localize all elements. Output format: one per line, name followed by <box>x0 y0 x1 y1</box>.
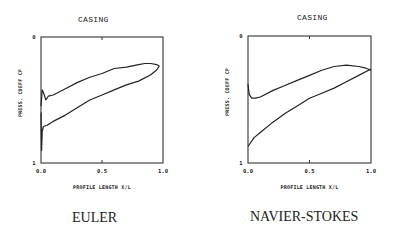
y-tick-label: 1 <box>239 160 243 166</box>
navier-stokes-panel: CASING 010.00.51.0PROFILE LENGTH X/LPRES… <box>200 0 395 239</box>
plot-frame <box>248 36 371 163</box>
y-tick-label: 1 <box>32 160 36 166</box>
x-axis-title: PROFILE LENGTH X/L <box>73 184 131 190</box>
x-tick-label: 0.0 <box>243 168 253 174</box>
y-tick-label: 0 <box>239 33 242 39</box>
euler-panel: CASING 010.00.51.0PROFILE LENGTH X/LPRES… <box>0 0 200 239</box>
x-tick-label: 1.0 <box>366 168 376 174</box>
cp-curve-upper <box>248 65 371 98</box>
cp-curve-lower <box>41 66 159 150</box>
plot-frame <box>41 37 163 163</box>
euler-plot: 010.00.51.0PROFILE LENGTH X/LPRESS. COEF… <box>0 0 200 200</box>
x-tick-label: 0.5 <box>305 168 315 174</box>
x-tick-label: 1.0 <box>158 168 168 174</box>
y-tick-label: 0 <box>32 34 35 40</box>
cp-curve-upper <box>41 64 159 107</box>
chart-caption: EULER <box>72 210 117 226</box>
navier-stokes-plot: 010.00.51.0PROFILE LENGTH X/LPRESS. COEF… <box>200 0 395 200</box>
y-axis-title: PRESS. COEFF CP <box>224 68 230 116</box>
y-axis-title: PRESS. COEFF CP <box>17 69 23 117</box>
cp-curve-lower <box>248 69 371 147</box>
x-tick-label: 0.0 <box>36 168 46 174</box>
x-axis-title: PROFILE LENGTH X/L <box>281 184 339 190</box>
chart-caption: NAVIER-STOKES <box>250 209 358 225</box>
x-tick-label: 0.5 <box>97 168 107 174</box>
